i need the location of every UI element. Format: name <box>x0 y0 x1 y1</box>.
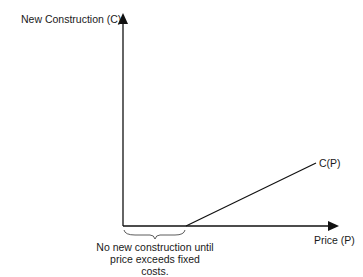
x-axis-arrow-icon <box>328 221 339 231</box>
y-axis-label: New Construction (C) <box>21 13 121 25</box>
annotation-line-1: No new construction until <box>95 241 215 253</box>
annotation-line-2: price exceeds fixed costs. <box>95 253 215 277</box>
curve-label: C(P) <box>319 157 341 169</box>
brace <box>124 230 185 239</box>
x-axis-label: Price (P) <box>314 234 355 246</box>
supply-curve <box>186 163 316 226</box>
